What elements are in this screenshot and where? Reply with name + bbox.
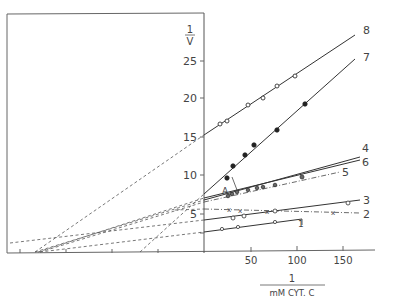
- x-axis-label-numerator: 1: [289, 273, 295, 284]
- y-ticks: [200, 61, 204, 233]
- series-lines: [204, 35, 360, 232]
- x-tick-label-100: 100: [287, 255, 306, 266]
- lineweaver-burk-chart: 25 20 15 10 5 1 V 50 100 150 1 mM CYT. C: [0, 0, 395, 302]
- series-1-line: [204, 219, 302, 232]
- y-axis-label-denominator: V: [187, 36, 194, 47]
- annotation-pointer: [232, 177, 237, 190]
- svg-text:x: x: [265, 208, 269, 216]
- y-tick-label-20: 20: [183, 92, 197, 105]
- y-tick-label-15: 15: [183, 131, 197, 144]
- svg-text:x: x: [331, 209, 335, 217]
- series-label-3: 3: [363, 194, 370, 207]
- y-tick-label-25: 25: [183, 55, 197, 68]
- x-tick-label-150: 150: [333, 255, 352, 266]
- y-tick-label-10: 10: [183, 169, 197, 182]
- y-axis-label-numerator: 1: [187, 24, 193, 35]
- x-axis-label-denominator: mM CYT. C: [270, 288, 315, 298]
- series-label-7: 7: [363, 51, 370, 64]
- series-label-1: 1: [298, 219, 304, 229]
- svg-text:x: x: [227, 206, 231, 214]
- x-axis: [7, 250, 375, 253]
- x-tick-label-50: 50: [245, 255, 258, 266]
- svg-text:x: x: [238, 207, 242, 215]
- series-label-2: 2: [363, 208, 370, 221]
- y-tick-label-5: 5: [190, 208, 197, 221]
- extrapolation-lines: [10, 135, 204, 252]
- series-label-8: 8: [363, 24, 370, 37]
- top-border: [7, 13, 204, 14]
- series-label-5: 5: [342, 166, 349, 179]
- series-label-4: 4: [362, 142, 369, 155]
- series-label-6: 6: [362, 156, 369, 169]
